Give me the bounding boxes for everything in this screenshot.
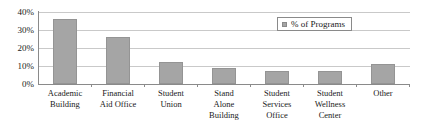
legend-label: % of Programs [291,20,345,29]
x-tick-7 [409,84,410,87]
bar-other[interactable] [371,64,395,84]
x-label-student-union: StudentUnion [143,88,199,110]
y-tick-label-0: 0% [0,80,34,89]
y-tick-label-20: 20% [0,44,34,53]
x-label-student-services-office: StudentServicesOffice [249,88,305,121]
bar-financial-aid-office[interactable] [106,37,130,84]
legend-swatch-icon [282,22,287,27]
y-tick-label-30: 30% [0,26,34,35]
x-tick-6 [356,84,357,87]
x-tick-4 [250,84,251,87]
bar-academic-building[interactable] [53,19,77,84]
bar-student-union[interactable] [159,62,183,84]
chart-legend[interactable]: % of Programs [277,17,352,31]
bar-student-services-office[interactable] [265,71,289,84]
x-tick-1 [91,84,92,87]
bar-stand-alone-building[interactable] [212,68,236,84]
x-axis-category-labels: AcademicBuilding FinancialAid Office Stu… [38,88,410,135]
x-label-financial-aid-office: FinancialAid Office [90,88,146,110]
y-tick-label-10: 10% [0,62,34,71]
axis-baseline [38,84,410,85]
x-label-stand-alone-building: StandAloneBuilding [196,88,252,121]
y-axis-tick-labels: 40% 30% 20% 10% 0% [0,0,34,135]
x-tick-2 [144,84,145,87]
x-tick-5 [303,84,304,87]
y-tick-label-40: 40% [0,8,34,17]
bar-series [38,12,410,84]
bar-chart: 40% 30% 20% 10% 0% AcademicBuilding F [0,0,424,135]
x-label-other: Other [355,88,411,99]
x-label-student-wellness-center: StudentWellnessCenter [302,88,358,121]
x-tick-3 [197,84,198,87]
x-label-academic-building: AcademicBuilding [37,88,93,110]
bar-student-wellness-center[interactable] [318,71,342,84]
